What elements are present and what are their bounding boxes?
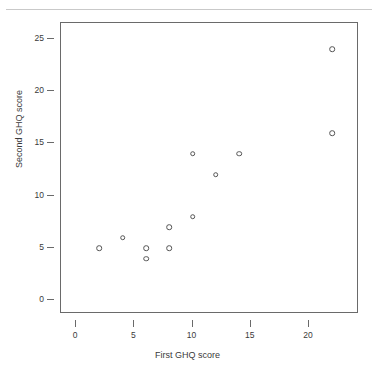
y-tick-mark [47, 299, 54, 300]
data-point [120, 235, 126, 241]
data-point [236, 151, 242, 157]
x-tick-label: 10 [187, 331, 196, 340]
x-axis-title: First GHQ score [0, 350, 375, 360]
y-tick-mark [47, 38, 54, 39]
data-point [97, 245, 103, 251]
y-tick-label: 15 [35, 138, 44, 147]
y-tick-mark [47, 247, 54, 248]
plot-area-frame [60, 22, 358, 313]
data-points-layer [61, 23, 357, 312]
x-tick-mark [75, 320, 76, 327]
data-point [143, 245, 149, 251]
y-tick-label: 5 [39, 243, 44, 252]
x-tick-label: 5 [131, 331, 136, 340]
data-point [190, 151, 196, 157]
x-tick-mark [308, 320, 309, 327]
data-point [329, 130, 335, 136]
y-tick-mark [47, 90, 54, 91]
x-tick-label: 0 [73, 331, 78, 340]
x-tick-label: 20 [303, 331, 312, 340]
y-tick-label: 0 [39, 295, 44, 304]
y-tick-label: 10 [35, 190, 44, 199]
x-tick-mark [250, 320, 251, 327]
data-point [213, 172, 219, 178]
y-tick-label: 20 [35, 86, 44, 95]
y-tick-mark [47, 142, 54, 143]
x-tick-label: 15 [245, 331, 254, 340]
y-tick-label: 25 [35, 33, 44, 42]
data-point [190, 214, 196, 220]
y-axis-title: Second GHQ score [14, 90, 24, 168]
x-axis: First GHQ score 05101520 [0, 313, 375, 373]
y-tick-mark [47, 195, 54, 196]
scatter-plot-figure: Second GHQ score 0510152025 First GHQ sc… [0, 0, 375, 373]
data-point [329, 46, 335, 52]
x-tick-mark [192, 320, 193, 327]
data-point [166, 245, 172, 251]
data-point [166, 224, 172, 230]
x-tick-mark [133, 320, 134, 327]
data-point [143, 256, 149, 262]
